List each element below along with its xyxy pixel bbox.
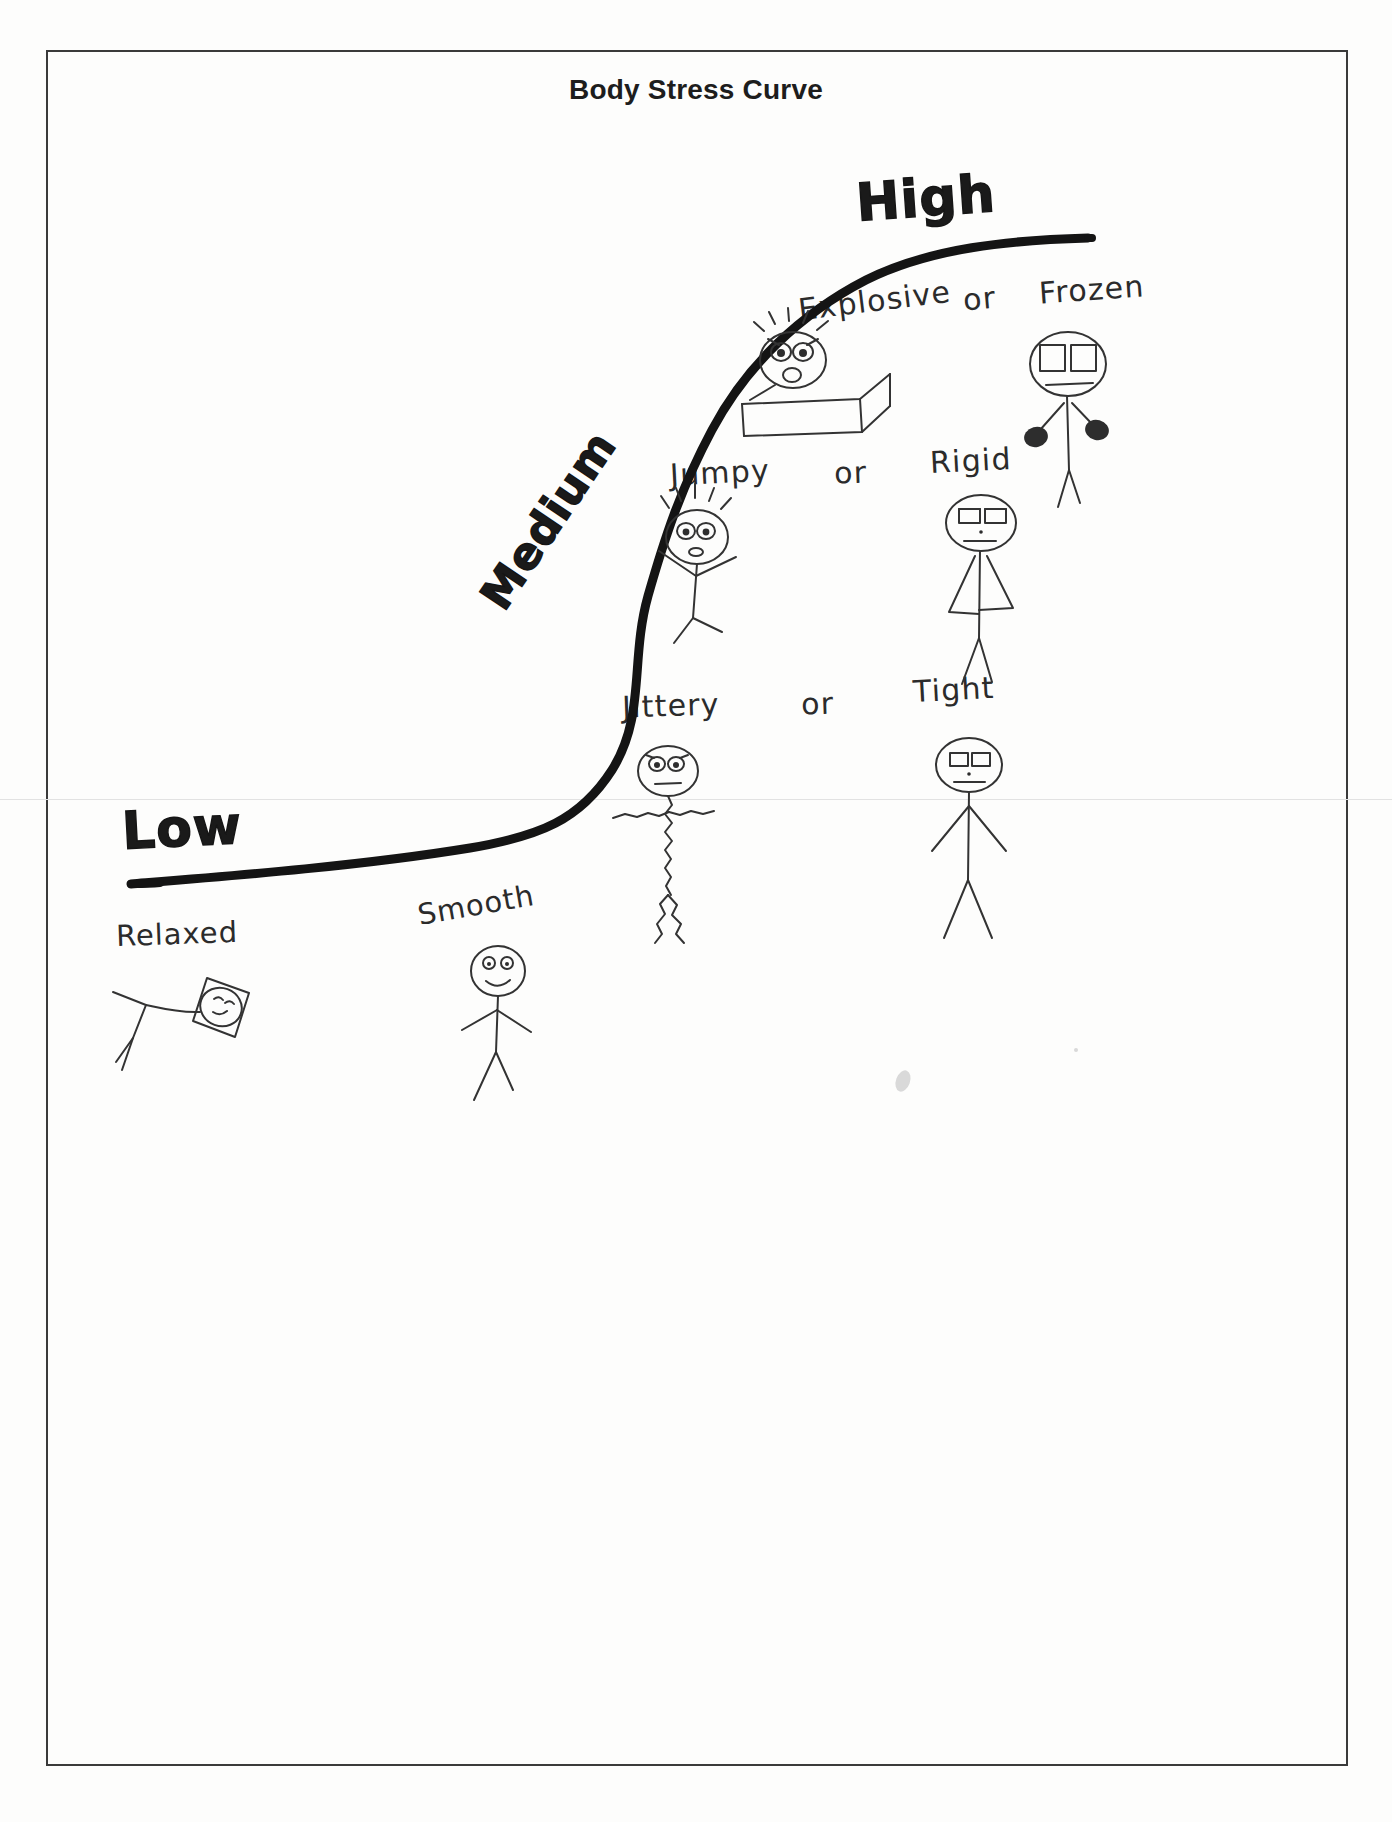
label-or-uppermid: or — [833, 454, 867, 490]
label-frozen: Frozen — [1038, 268, 1146, 310]
page-title: Body Stress Curve — [0, 74, 1392, 106]
label-relaxed: Relaxed — [115, 915, 238, 953]
label-or-mid: or — [800, 685, 834, 721]
page-border — [46, 50, 1348, 1766]
label-jumpy: Jumpy — [669, 452, 771, 492]
label-or-high: or — [962, 280, 998, 318]
label-rigid: Rigid — [929, 441, 1012, 480]
level-label-low: Low — [121, 795, 244, 861]
worksheet-page: Body Stress Curve High Medium Low Explos… — [0, 0, 1392, 1822]
label-jittery: Jittery — [621, 686, 720, 724]
label-tight: Tight — [912, 670, 995, 709]
level-label-high: High — [854, 163, 997, 233]
